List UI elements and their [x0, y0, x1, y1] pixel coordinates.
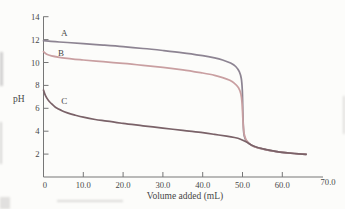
curve-C	[44, 90, 307, 154]
x-tick-label: 30.0	[155, 180, 170, 190]
x-tick-label: 70.0	[321, 177, 336, 187]
curve-label-B: B	[58, 48, 64, 58]
titration-figure: 2468101214010.020.030.040.050.060.070.0 …	[0, 0, 345, 209]
x-tick-label: 50.0	[235, 180, 250, 190]
y-tick-label: 4	[35, 126, 40, 136]
x-tick-label: 40.0	[195, 180, 210, 190]
titration-chart: 2468101214010.020.030.040.050.060.070.0 …	[0, 0, 345, 209]
x-tick-label: 0	[43, 180, 47, 190]
axes: 2468101214010.020.030.040.050.060.070.0	[31, 12, 336, 190]
x-axis-title: Volume added (mL)	[147, 191, 223, 202]
x-tick-label: 60.0	[275, 180, 290, 190]
curve-B	[44, 52, 307, 155]
y-tick-label: 8	[35, 80, 39, 90]
y-tick-label: 2	[35, 149, 39, 159]
y-tick-label: 14	[31, 12, 40, 22]
y-tick-label: 12	[31, 35, 40, 45]
y-axis-title: pH	[13, 94, 25, 104]
x-tick-label: 20.0	[116, 180, 131, 190]
curve-label-A: A	[61, 28, 68, 38]
y-tick-label: 10	[31, 58, 40, 68]
curves: ABC	[44, 28, 307, 154]
curve-A	[44, 41, 307, 155]
x-tick-label: 10.0	[76, 180, 91, 190]
curve-label-C: C	[61, 96, 67, 106]
y-tick-label: 6	[35, 103, 40, 113]
